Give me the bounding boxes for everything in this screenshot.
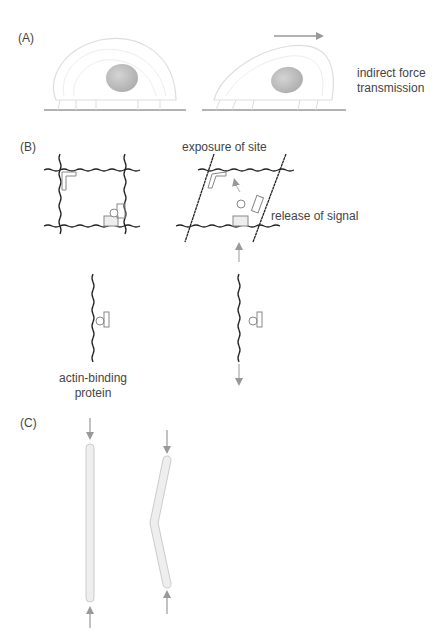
label-release-of-signal: release of signal	[271, 209, 358, 223]
label-actin-binding: actin-binding	[55, 371, 131, 385]
rod-straight	[86, 418, 94, 628]
network-sheared	[176, 154, 294, 262]
network-relaxed	[44, 154, 140, 234]
caption-indirect-force: indirect force	[357, 66, 426, 80]
filament-relaxed	[92, 274, 109, 362]
filament-stretched	[238, 274, 262, 382]
nucleus	[269, 64, 305, 95]
label-protein: protein	[55, 386, 131, 400]
nucleus	[106, 64, 138, 92]
label-exposure-of-site: exposure of site	[182, 140, 267, 154]
caption-transmission: transmission	[357, 81, 424, 95]
panel-c-label: (C)	[20, 416, 37, 430]
panel-b-label: (B)	[20, 140, 36, 154]
panel-a-label: (A)	[18, 31, 34, 45]
diagram-canvas	[0, 0, 432, 644]
rod-buckled	[154, 430, 167, 614]
cell-shifted	[202, 36, 346, 110]
cell-resting	[44, 38, 186, 110]
